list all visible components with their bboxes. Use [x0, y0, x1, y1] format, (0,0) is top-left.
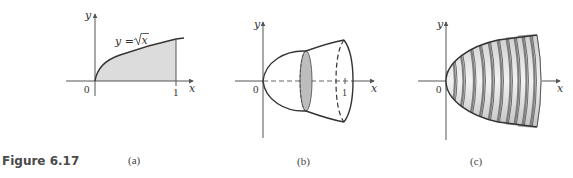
y-axis-label: y: [253, 18, 261, 31]
panel-c: y x 0 (c): [418, 18, 564, 168]
figure-caption: Figure 6.17: [2, 154, 79, 168]
origin-label: 0: [84, 83, 90, 95]
origin-label: 0: [436, 83, 442, 95]
panel-b: y x 0 1 (b): [235, 18, 378, 168]
tick-1-label: 1: [173, 86, 179, 98]
panel-b-label: (b): [297, 155, 310, 168]
x-axis-label: x: [189, 82, 196, 95]
panel-a: y x 0 1 y = x (a): [66, 9, 196, 167]
svg-text:y =: y =: [114, 35, 134, 48]
y-axis-label: y: [84, 9, 92, 22]
tick-1-label: 1: [342, 87, 347, 98]
y-axis-label: y: [436, 18, 444, 31]
panel-a-label: (a): [128, 154, 141, 167]
disk-stack: [446, 34, 541, 128]
x-axis-label: x: [557, 82, 564, 95]
x-axis-label: x: [371, 82, 378, 95]
curve-equation-label: y = x: [114, 34, 149, 49]
panel-c-label: (c): [470, 155, 483, 168]
figure-6-17: y x 0 1 y = x (a) y x 0 1 (b): [0, 0, 573, 178]
svg-text:x: x: [142, 34, 149, 47]
shaded-region: [95, 39, 176, 81]
origin-label: 0: [253, 83, 259, 95]
